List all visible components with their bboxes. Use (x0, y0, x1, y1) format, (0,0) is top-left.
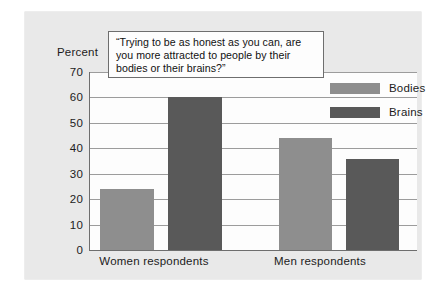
bar-men-bodies (279, 138, 332, 250)
dark-gray-swatch-icon (330, 107, 380, 118)
light-gray-swatch-icon (330, 83, 380, 94)
bar-women-bodies (100, 189, 154, 250)
legend-item-bodies: Bodies (330, 78, 434, 98)
y-tick-70: 70 (70, 66, 83, 78)
legend: Bodies Brains (330, 78, 434, 126)
y-axis-title: Percent (57, 46, 98, 58)
legend-label-bodies: Bodies (389, 82, 425, 94)
chart-panel: Percent 70 60 50 40 30 20 10 0 Women res… (25, 12, 421, 279)
y-tick-10: 10 (70, 219, 83, 231)
y-tick-50: 50 (70, 117, 83, 129)
y-tick-30: 30 (70, 168, 83, 180)
question-callout: “Trying to be as honest as you can, are … (108, 31, 324, 78)
y-tick-40: 40 (70, 142, 83, 154)
x-label-men: Men respondents (250, 255, 390, 267)
bar-men-brains (346, 159, 399, 251)
x-label-women: Women respondents (79, 255, 229, 267)
y-tick-60: 60 (70, 91, 83, 103)
y-tick-20: 20 (70, 193, 83, 205)
bar-women-brains (168, 97, 222, 250)
legend-label-brains: Brains (389, 106, 423, 118)
legend-item-brains: Brains (330, 102, 434, 122)
y-axis-tick-labels: 70 60 50 40 30 20 10 0 (55, 72, 83, 250)
gridline-40 (90, 148, 417, 149)
